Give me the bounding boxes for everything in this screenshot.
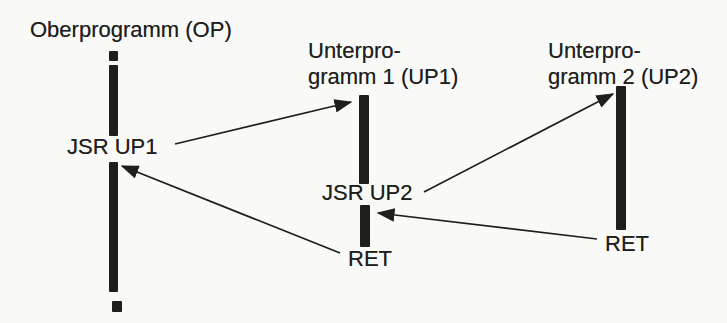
op-bar-top-dash [109,51,118,61]
up1-jsr-up2-instruction: JSR UP2 [322,180,412,206]
op-program-title: Oberprogramm (OP) [30,17,232,43]
up1-program-title: Unterpro- gramm 1 (UP1) [308,38,458,90]
arrow-up2-returns-to-up1 [378,213,597,239]
up2-program-title: Unterpro- gramm 2 (UP2) [548,38,698,90]
subroutine-call-diagram: Oberprogramm (OP) Unterpro- gramm 1 (UP1… [0,0,727,323]
up1-bar-segment-1 [359,95,369,184]
op-bar-segment-2 [109,162,118,292]
op-bar-bottom-dash [112,301,122,312]
up1-program-title-line2: gramm 1 (UP1) [308,64,458,90]
up2-ret-instruction: RET [605,231,649,257]
op-jsr-up1-instruction: JSR UP1 [67,134,157,160]
up1-bar-segment-2 [360,205,370,247]
up1-program-title-line1: Unterpro- [308,38,458,64]
up2-bar-segment [616,86,626,230]
arrow-up1-returns-to-op [122,166,340,253]
op-bar-segment-1 [109,65,118,136]
arrow-up1-calls-up2 [424,94,613,192]
arrow-op-calls-up1 [175,102,351,144]
up2-program-title-line1: Unterpro- [548,38,698,64]
up1-ret-instruction: RET [348,246,392,272]
